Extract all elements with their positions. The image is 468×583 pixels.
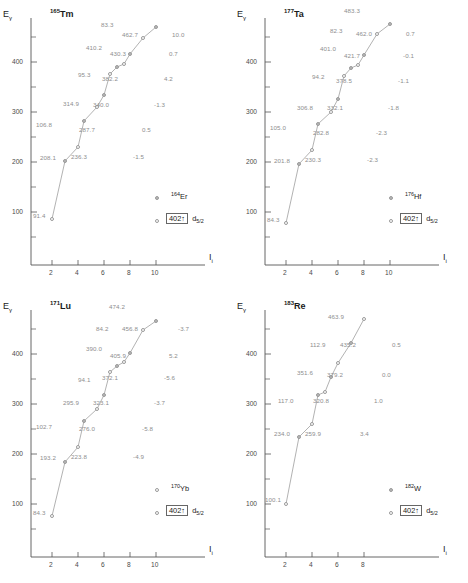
energy-label: 193.2 <box>40 454 56 461</box>
legend-orbital-label: 402↑ d5/2 <box>400 505 438 516</box>
data-point <box>316 122 320 126</box>
legend-orbital-label: 402↑ d5/2 <box>166 505 204 516</box>
energy-label: 95.3 <box>78 71 90 78</box>
x-tick-label: 4 <box>75 561 79 568</box>
y-tick-label: 100 <box>246 500 257 507</box>
data-point <box>388 22 392 26</box>
energy-label: 94.2 <box>312 73 324 80</box>
energy-label: 201.8 <box>274 157 290 164</box>
x-tick-label: 8 <box>361 269 365 276</box>
residual-label: -5.8 <box>142 425 153 432</box>
orbital-box: 402↑ <box>400 505 422 516</box>
y-tick-label: 300 <box>12 400 23 407</box>
data-point <box>356 63 360 67</box>
energy-label: 234.0 <box>274 430 290 437</box>
energy-label: 84.3 <box>33 509 45 516</box>
legend-orbital-label: 402↑ d5/2 <box>166 213 204 224</box>
x-tick-label: 10 <box>151 561 158 568</box>
y-tick-label: 300 <box>12 108 23 115</box>
panel-title: 177Ta <box>284 8 304 19</box>
legend-nucleus-label: 170Yb <box>171 483 189 493</box>
data-point <box>154 25 158 29</box>
data-point <box>141 36 145 40</box>
data-point <box>63 159 67 163</box>
energy-label: 91.4 <box>33 212 45 219</box>
data-point <box>76 445 80 449</box>
x-tick-label: 4 <box>309 561 313 568</box>
x-tick-label: 2 <box>49 269 53 276</box>
energy-label: 320.8 <box>313 397 329 404</box>
energy-label: 340.0 <box>93 101 109 108</box>
data-point <box>82 419 86 423</box>
x-tick-label: 6 <box>335 269 339 276</box>
energy-label: 276.0 <box>79 425 95 432</box>
energy-label: 379.2 <box>327 371 343 378</box>
data-point <box>115 65 119 69</box>
energy-label: 372.1 <box>102 374 118 381</box>
data-point <box>128 52 132 56</box>
residual-label: -2.3 <box>376 129 387 136</box>
data-point <box>50 514 54 518</box>
data-point <box>82 119 86 123</box>
y-tick-label: 200 <box>246 450 257 457</box>
y-tick-label: 100 <box>246 208 257 215</box>
energy-label: 106.8 <box>36 121 52 128</box>
residual-label: -2.3 <box>367 156 378 163</box>
y-tick-label: 400 <box>12 58 23 65</box>
energy-label: 430.3 <box>110 50 126 57</box>
data-point <box>362 53 366 57</box>
data-point <box>122 360 126 364</box>
data-point <box>95 407 99 411</box>
data-point <box>362 317 366 321</box>
data-point <box>115 364 119 368</box>
legend-orbital-label: 402↑ d5/2 <box>400 213 438 224</box>
y-axis-title: Eγ <box>3 9 12 21</box>
multi-panel-figure: Eγ Ii 165Tm 400 300 200 100 2 4 6 8 10 9… <box>0 0 468 583</box>
energy-label: 295.9 <box>63 399 79 406</box>
x-axis-title: Ii <box>209 252 213 264</box>
energy-label: 462.7 <box>122 31 138 38</box>
y-tick-label: 300 <box>246 108 257 115</box>
residual-label: 10.0 <box>172 31 184 38</box>
energy-label: 306.8 <box>297 104 313 111</box>
data-point <box>375 32 379 36</box>
legend-marker-orbital <box>155 511 159 515</box>
energy-label: 323.1 <box>93 399 109 406</box>
data-point <box>349 66 353 70</box>
energy-label: 378.5 <box>336 77 352 84</box>
residual-label: 0.7 <box>406 30 415 37</box>
energy-label: 282.8 <box>313 129 329 136</box>
axes-svg-tm165 <box>0 0 234 291</box>
residual-label: 0.5 <box>142 126 151 133</box>
axes-svg-lu171 <box>0 292 234 583</box>
orbital-box: 402↑ <box>166 505 188 516</box>
plot-area-ta177 <box>234 0 468 291</box>
energy-label-top: 474.2 <box>109 303 125 310</box>
energy-label: 105.0 <box>270 124 286 131</box>
y-tick-label: 300 <box>246 400 257 407</box>
x-tick-label: 6 <box>335 561 339 568</box>
x-tick-label: 4 <box>75 269 79 276</box>
energy-label: 410.2 <box>86 44 102 51</box>
data-point <box>297 162 301 166</box>
legend-marker-nucleus <box>389 196 393 200</box>
data-point <box>336 361 340 365</box>
panel-lu171: Eγ Ii 171Lu 400 300 200 100 2 4 6 8 10 8… <box>0 292 234 583</box>
energy-label: 236.3 <box>71 153 87 160</box>
orbital-box: 402↑ <box>166 213 188 224</box>
y-tick-label: 200 <box>12 158 23 165</box>
y-tick-label: 100 <box>12 500 23 507</box>
plot-area-tm165 <box>0 0 234 291</box>
x-tick-label: 2 <box>283 269 287 276</box>
energy-label: 94.1 <box>78 376 90 383</box>
plot-area-lu171 <box>0 292 234 583</box>
residual-label: -0.1 <box>403 52 414 59</box>
residual-label: -5.6 <box>164 374 175 381</box>
data-point <box>336 97 340 101</box>
data-point <box>297 435 301 439</box>
residual-label: -1.8 <box>388 104 399 111</box>
y-tick-label: 100 <box>12 208 23 215</box>
y-tick-label: 200 <box>246 158 257 165</box>
energy-label: 435.2 <box>340 341 356 348</box>
energy-label: 259.9 <box>305 430 321 437</box>
